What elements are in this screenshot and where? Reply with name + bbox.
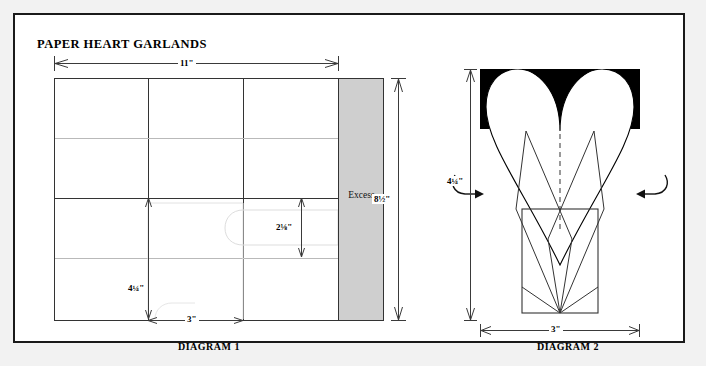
diagram-2: 4¼" 3" xyxy=(445,45,670,335)
dim-d2-width-arrow-left xyxy=(481,326,492,335)
dim-strip-arrow-bottom xyxy=(298,248,305,258)
dim-cellheight-label: 4¼" xyxy=(126,283,146,293)
dim-height-arrow-top xyxy=(394,79,403,93)
diagram-1-caption: DIAGRAM 1 xyxy=(178,341,240,352)
diagram-2-caption: DIAGRAM 2 xyxy=(537,341,599,352)
dim-d2-width-arrow-right xyxy=(629,326,640,335)
dim-cellwidth-arrow-right xyxy=(234,317,244,324)
dim-cellheight-arrow-top xyxy=(145,198,152,208)
dim-height-line xyxy=(398,79,399,320)
dim-width-arrow-left xyxy=(55,59,69,68)
diagram-1: 11" Excess xyxy=(42,45,387,335)
dim-d2-height-arrow-bottom xyxy=(466,308,475,321)
heart-template-ghosts xyxy=(55,79,338,320)
dim-width-line xyxy=(55,63,338,64)
heart-assembly-drawing xyxy=(480,69,640,321)
dim-cellheight-line xyxy=(148,199,149,319)
dim-cellwidth-label: 3" xyxy=(185,314,199,324)
dim-width-label: 11" xyxy=(178,58,196,68)
bottom-wedge xyxy=(522,287,598,313)
dim-d2-height-line xyxy=(470,70,471,320)
dim-width-arrow-right xyxy=(325,59,339,68)
page-background: PAPER HEART GARLANDS 11" xyxy=(0,0,706,366)
dim-height-arrow-bottom xyxy=(394,307,403,321)
dim-d2-height-label: 4¼" xyxy=(445,176,465,186)
fold-arrow-right-icon xyxy=(629,173,671,203)
dim-d2-width-label: 3" xyxy=(549,324,563,334)
fabric-grid xyxy=(54,78,339,321)
dim-d2-height-arrow-top xyxy=(466,70,475,83)
dim-height-label: 8½" xyxy=(372,194,392,204)
dim-strip-arrow-top xyxy=(298,198,305,208)
instruction-frame: PAPER HEART GARLANDS 11" xyxy=(13,13,685,343)
dim-strip-label: 2⅛" xyxy=(274,222,294,232)
dim-cellwidth-arrow-left xyxy=(148,317,158,324)
